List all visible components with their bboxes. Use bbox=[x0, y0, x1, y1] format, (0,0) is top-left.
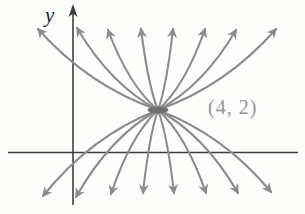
figure-family-of-curves: y (4, 2) bbox=[0, 0, 305, 214]
y-axis-label: y bbox=[45, 5, 54, 26]
point-label-4-2: (4, 2) bbox=[208, 97, 257, 117]
family-of-curves-svg bbox=[0, 0, 305, 214]
